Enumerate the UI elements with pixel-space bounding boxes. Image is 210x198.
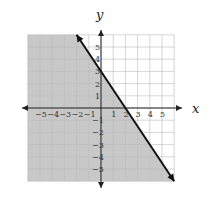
y-tick-label: −1: [92, 116, 104, 125]
x-tick-label: −3: [59, 110, 71, 119]
x-tick-label: −5: [35, 110, 47, 119]
y-tick-label: 1: [95, 92, 100, 101]
x-tick-label: 3: [136, 110, 141, 119]
x-axis-arrow-left-icon: [22, 105, 28, 111]
x-axis-arrow-right-icon: [176, 105, 182, 111]
x-tick-label: −4: [47, 110, 59, 119]
y-tick-label: −4: [92, 153, 104, 162]
x-tick-label: −2: [72, 110, 84, 119]
inequality-graph: −5−4−3−2−11234554321−1−2−3−4−5 x y: [0, 0, 210, 198]
x-axis-label: x: [192, 101, 200, 116]
y-tick-label: 5: [95, 43, 100, 52]
y-tick-label: −3: [92, 141, 104, 150]
y-tick-label: −5: [92, 165, 104, 174]
x-tick-label: 1: [111, 110, 116, 119]
y-axis-arrow-up-icon: [98, 30, 104, 36]
y-axis-arrow-down-icon: [98, 182, 104, 188]
y-axis-label: y: [95, 7, 104, 22]
y-tick-label: 2: [95, 80, 100, 89]
x-tick-label: 5: [160, 110, 165, 119]
x-tick-label: 4: [148, 110, 153, 119]
y-tick-label: −2: [92, 128, 104, 137]
